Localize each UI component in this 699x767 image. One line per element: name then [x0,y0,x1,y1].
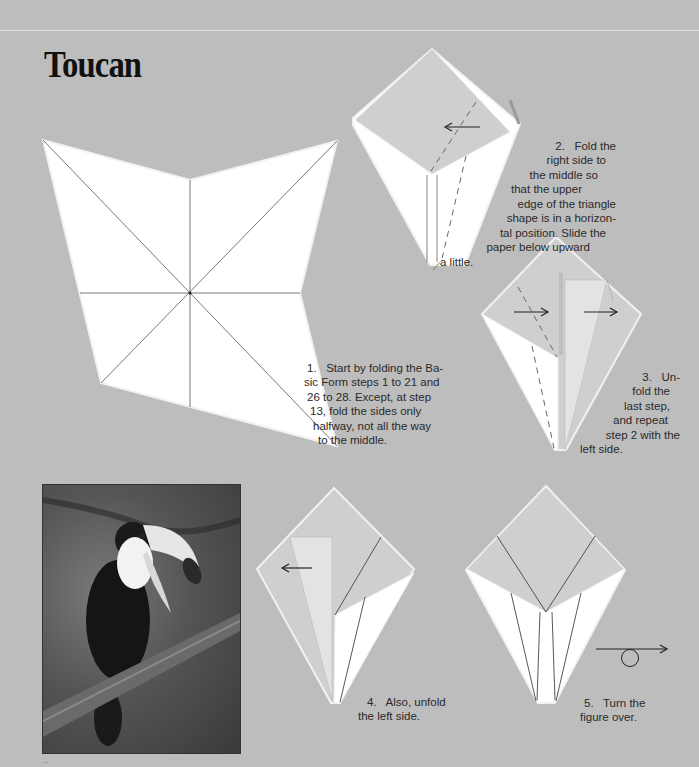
caption-line: halfway, not all the way [265,419,443,434]
caption-line: and repeat [580,413,680,428]
caption-line: the left side. [358,709,446,724]
caption-line: that the upper [420,182,616,197]
caption-line: 13, fold the sides only [265,404,443,419]
caption-line: 5. Turn the [580,696,645,711]
caption-line: paper below upward [420,240,616,255]
caption-line: fold the [580,384,680,399]
caption-line: 4. Also, unfold [358,695,446,710]
caption-line: 2. Fold the [420,139,616,154]
turn-over-icon [596,645,667,667]
step-4-diagram [257,488,414,703]
caption-line: right side to [420,153,616,168]
step-5-diagram [466,486,625,703]
caption-line: figure over. [580,710,645,725]
caption-line: left side. [580,442,680,457]
step-5-caption: 5. Turn thefigure over. [580,681,645,739]
caption-line: 3. Un- [580,370,680,385]
caption-line: edge of the triangle [420,197,616,212]
page-number: ... [42,756,49,765]
caption-line: step 2 with the [580,428,680,443]
caption-line: 26 to 28. Except, at step [265,390,443,405]
caption-line: tal position. Slide the [420,226,616,241]
caption-line: last step, [580,399,680,414]
step-3-caption: 3. Un-fold thelast step,and repeatstep 2… [580,355,680,471]
caption-line: the middle so [420,168,616,183]
caption-line: to the middle. [265,433,443,448]
caption-line: sic Form steps 1 to 21 and [265,375,443,390]
step-1-caption: 1. Start by folding the Ba-sic Form step… [265,346,443,462]
caption-line: a little. [420,255,616,270]
caption-line: 1. Start by folding the Ba- [265,361,443,376]
step-2-caption: 2. Fold theright side tothe middle sotha… [420,124,616,284]
caption-line: shape is in a horizon- [420,211,616,226]
toucan-illustration [43,485,240,753]
toucan-photo [42,484,241,754]
step-4-caption: 4. Also, unfoldthe left side. [358,680,446,738]
